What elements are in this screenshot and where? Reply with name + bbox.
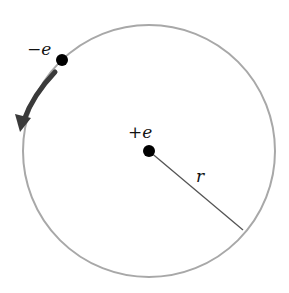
- electron-label: −e: [27, 39, 51, 59]
- radius-label: r: [196, 166, 205, 186]
- bohr-diagram: −e +e r: [0, 0, 289, 293]
- electron-dot: [56, 54, 68, 66]
- radius-line: [149, 151, 243, 230]
- nucleus-dot: [143, 145, 155, 157]
- nucleus-label: +e: [128, 122, 152, 142]
- direction-arrow-icon: [24, 72, 55, 120]
